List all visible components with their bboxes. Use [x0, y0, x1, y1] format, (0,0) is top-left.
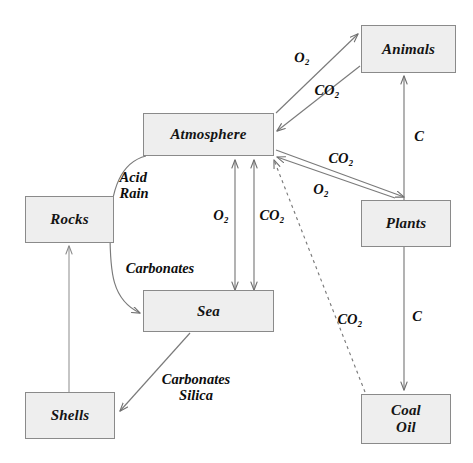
edge-coaloil-to-atmosphere-co2	[274, 160, 365, 392]
node-coal-oil-label: Coal Oil	[391, 402, 421, 436]
carbon-cycle-diagram: Animals Atmosphere Plants Rocks Sea Shel…	[0, 0, 473, 463]
node-sea[interactable]: Sea	[143, 290, 274, 332]
node-animals[interactable]: Animals	[361, 25, 456, 73]
node-atmosphere[interactable]: Atmosphere	[143, 113, 274, 156]
node-shells[interactable]: Shells	[25, 392, 115, 439]
node-animals-label: Animals	[382, 41, 435, 58]
node-plants[interactable]: Plants	[361, 200, 451, 247]
edge-atmosphere-to-sea-acid-rain	[110, 156, 146, 313]
edge-atmosphere-to-plants-o2	[276, 150, 404, 197]
node-shells-label: Shells	[51, 407, 90, 424]
node-plants-label: Plants	[386, 215, 426, 232]
node-rocks[interactable]: Rocks	[25, 196, 114, 243]
node-rocks-label: Rocks	[50, 211, 89, 228]
node-atmosphere-label: Atmosphere	[170, 126, 246, 143]
node-coal-oil[interactable]: Coal Oil	[361, 394, 451, 444]
edge-animals-to-atmosphere-co2	[277, 66, 360, 131]
node-sea-label: Sea	[197, 303, 220, 320]
edge-atmosphere-to-animals-o2	[276, 34, 358, 113]
edge-plants-to-atmosphere-co2	[277, 157, 395, 198]
edge-sea-to-shells-carbonates-silica	[120, 333, 190, 411]
